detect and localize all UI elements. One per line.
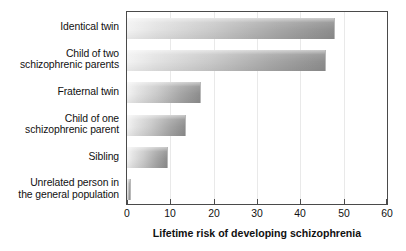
bar xyxy=(127,82,201,103)
x-axis-tick xyxy=(300,199,301,204)
x-axis-tick-label: 30 xyxy=(251,207,263,220)
x-axis-tick-label: 40 xyxy=(294,207,306,220)
category-label: Unrelated person inthe general populatio… xyxy=(0,177,119,200)
category-label: Child of twoschizophrenic parents xyxy=(0,48,119,71)
category-label-line: Child of one xyxy=(0,113,119,125)
x-axis-tick-label: 60 xyxy=(381,207,393,220)
plot-area xyxy=(126,11,388,205)
category-label-line: Unrelated person in xyxy=(0,177,119,189)
gridline xyxy=(214,12,215,204)
x-axis-tick-labels: 0102030405060 xyxy=(126,207,388,223)
category-label-line: Fraternal twin xyxy=(0,86,119,98)
category-label-line: Child of two xyxy=(0,48,119,60)
bar xyxy=(127,18,335,39)
x-axis-tick-label: 50 xyxy=(338,207,350,220)
x-axis-tick xyxy=(344,199,345,204)
category-label-line: Sibling xyxy=(0,151,119,163)
category-label-line: schizophrenic parents xyxy=(0,59,119,71)
gridline xyxy=(344,12,345,204)
gridline xyxy=(300,12,301,204)
x-axis-tick-label: 20 xyxy=(208,207,220,220)
x-axis-title: Lifetime risk of developing schizophreni… xyxy=(126,227,388,239)
bar xyxy=(127,147,168,168)
x-axis-tick xyxy=(214,199,215,204)
category-label-line: schizophrenic parent xyxy=(0,124,119,136)
category-label-line: Identical twin xyxy=(0,21,119,33)
category-label: Sibling xyxy=(0,151,119,163)
x-axis-tick-label: 10 xyxy=(164,207,176,220)
category-label: Identical twin xyxy=(0,21,119,33)
category-label: Child of oneschizophrenic parent xyxy=(0,113,119,136)
gridline xyxy=(170,12,171,204)
bar xyxy=(127,50,326,71)
bar xyxy=(127,115,186,136)
x-axis-tick xyxy=(386,199,387,204)
gridline xyxy=(257,12,258,204)
category-axis-labels: Identical twinChild of twoschizophrenic … xyxy=(0,11,123,205)
category-label-line: the general population xyxy=(0,189,119,201)
x-axis-tick xyxy=(170,199,171,204)
schizophrenia-risk-bar-chart: Identical twinChild of twoschizophrenic … xyxy=(0,0,406,251)
x-axis-tick-label: 0 xyxy=(124,207,130,220)
bar xyxy=(127,179,131,200)
x-axis-tick xyxy=(257,199,258,204)
category-label: Fraternal twin xyxy=(0,86,119,98)
